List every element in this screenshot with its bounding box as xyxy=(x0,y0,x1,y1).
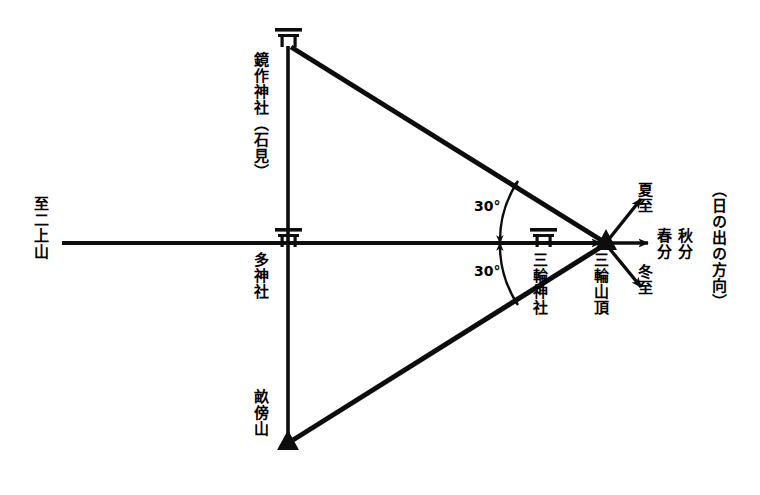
label-miwa-summit: 三輪山頂 xyxy=(592,252,608,316)
caption-sunrise-direction: （日の出の方向） xyxy=(710,182,726,310)
angle-arc-lower xyxy=(500,243,518,305)
label-kagamitsukuri-shrine: 鏡作神社（石見） xyxy=(252,52,268,180)
angle-arc-upper xyxy=(500,181,518,243)
label-summer-solstice: 夏至 xyxy=(636,182,652,214)
alignment-diagram-svg xyxy=(0,0,760,495)
label-miwa-shrine: 三輪神社 xyxy=(531,252,547,316)
label-winter-solstice: 冬至 xyxy=(636,264,652,296)
angle-label-lower: 30° xyxy=(474,263,500,279)
label-to-nijosan: 至二上山 xyxy=(32,196,48,260)
angle-label-upper: 30° xyxy=(474,198,500,214)
label-vernal-equinox: 春分 xyxy=(655,228,671,260)
diagram-canvas: 至二上山 鏡作神社（石見） 多神社 畝傍山 三輪神社 三輪山頂 30° 30° … xyxy=(0,0,760,495)
label-unebiyama: 畝傍山 xyxy=(252,389,268,437)
diagonal-lower-line xyxy=(293,247,601,440)
torii-icon xyxy=(275,28,302,47)
label-oo-shrine: 多神社 xyxy=(252,252,268,300)
diagonal-upper-line xyxy=(291,47,601,240)
label-autumnal-equinox: 秋分 xyxy=(676,228,692,260)
